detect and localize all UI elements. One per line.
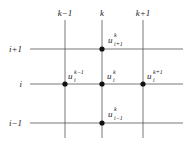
svg-text:k+1: k+1 xyxy=(153,69,163,75)
row-label: i xyxy=(19,79,22,89)
finite-difference-grid-diagram: k−1 k k+1 i+1 i i−1 u k i+1 u k−1 i u k … xyxy=(0,0,184,149)
grid-svg: k−1 k k+1 i+1 i i−1 u k i+1 u k−1 i u k … xyxy=(0,0,184,149)
node-label-u-i-k-plus-1: u k+1 i xyxy=(147,69,163,83)
svg-text:k−1: k−1 xyxy=(74,69,84,75)
svg-text:i−1: i−1 xyxy=(114,115,123,121)
row-label: i+1 xyxy=(9,44,22,54)
row-label: i−1 xyxy=(9,118,22,128)
svg-text:i: i xyxy=(74,77,76,83)
svg-text:i: i xyxy=(153,77,155,83)
column-label: k xyxy=(100,8,105,18)
svg-text:u: u xyxy=(147,71,152,81)
svg-text:k: k xyxy=(114,32,117,38)
svg-text:i: i xyxy=(113,77,115,83)
node-dot xyxy=(99,81,104,86)
svg-text:k: k xyxy=(114,106,117,112)
svg-text:u: u xyxy=(107,71,112,81)
column-label: k−1 xyxy=(58,8,73,18)
svg-text:i+1: i+1 xyxy=(114,41,123,47)
column-label: k+1 xyxy=(136,8,151,18)
svg-text:u: u xyxy=(108,35,113,45)
node-label-u-i-k-minus-1: u k−1 i xyxy=(68,69,84,83)
node-dot xyxy=(140,81,145,86)
node-label-u-i-plus-1-k: u k i+1 xyxy=(108,32,123,47)
svg-text:u: u xyxy=(68,71,73,81)
node-dot xyxy=(99,120,104,125)
node-dot xyxy=(62,81,67,86)
svg-text:u: u xyxy=(108,109,113,119)
node-label-u-i-k: u k i xyxy=(107,69,116,83)
svg-text:k: k xyxy=(113,69,116,75)
node-label-u-i-minus-1-k: u k i−1 xyxy=(108,106,123,121)
node-dot xyxy=(99,46,104,51)
